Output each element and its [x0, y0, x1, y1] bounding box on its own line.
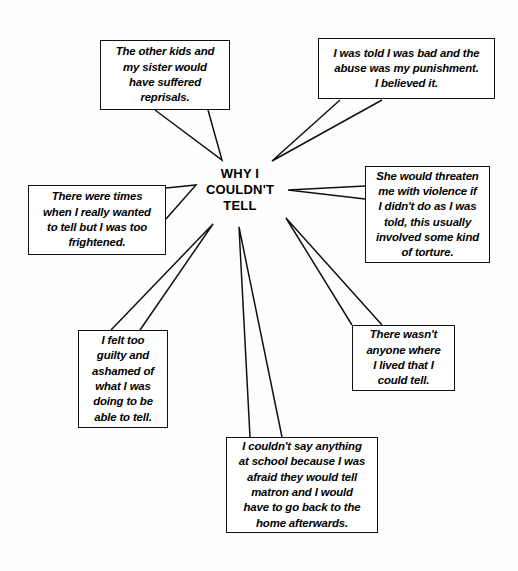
edge-school [239, 227, 282, 437]
node-threaten-label: She would threaten me with violence if I… [376, 169, 479, 261]
node-punishment-label: I was told I was bad and the abuse was m… [334, 46, 480, 92]
node-reprisals-label: The other kids and my sister would have … [116, 44, 215, 105]
node-school-label: I couldn't say anything at school becaus… [239, 439, 365, 531]
edge-threaten [288, 186, 365, 199]
node-school: I couldn't say anything at school becaus… [226, 437, 378, 533]
center-node: WHY I COULDN'T TELL [196, 163, 284, 217]
node-guilty-label: I felt too guilty and ashamed of what I … [92, 333, 154, 425]
edge-frightened [166, 185, 196, 219]
node-guilty: I felt too guilty and ashamed of what I … [78, 330, 168, 428]
diagram-page: WHY I COULDN'T TELL The other kids and m… [0, 0, 518, 571]
node-threaten: She would threaten me with violence if I… [365, 166, 490, 263]
node-frightened: There were times when I really wanted to… [28, 185, 166, 255]
node-frightened-label: There were times when I really wanted to… [43, 189, 151, 250]
node-no-one-label: There wasn't anyone where I lived that I… [366, 327, 440, 388]
center-node-label: WHY I COULDN'T TELL [206, 166, 274, 214]
edge-punishment [272, 100, 382, 161]
node-reprisals: The other kids and my sister would have … [100, 40, 230, 110]
edge-reprisals [155, 110, 222, 160]
node-punishment: I was told I was bad and the abuse was m… [318, 38, 495, 99]
node-no-one: There wasn't anyone where I lived that I… [352, 325, 455, 391]
